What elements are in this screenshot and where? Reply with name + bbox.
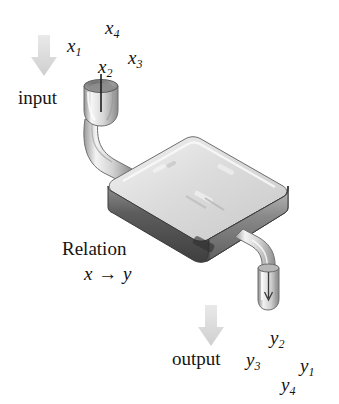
input-funnel bbox=[84, 74, 118, 126]
relation-label: Relation bbox=[62, 239, 126, 258]
relation-mapping: x → y bbox=[84, 264, 132, 283]
input-variable-x3: x3 bbox=[128, 48, 142, 67]
output-variable-y4: y4 bbox=[281, 375, 295, 394]
input-label: input bbox=[18, 88, 57, 107]
output-arrow-icon bbox=[198, 305, 224, 346]
input-pipe bbox=[84, 119, 132, 182]
input-variable-x1: x1 bbox=[67, 36, 81, 55]
output-nozzle bbox=[258, 264, 279, 310]
output-variable-y2: y2 bbox=[270, 328, 284, 347]
figure-canvas: x1 x2 x3 x4 input Relation x → y output … bbox=[0, 0, 339, 404]
input-variable-x2: x2 bbox=[98, 57, 112, 76]
output-label: output bbox=[172, 349, 221, 368]
machine-illustration bbox=[0, 0, 339, 404]
output-variable-y3: y3 bbox=[246, 350, 260, 369]
input-variable-x4: x4 bbox=[105, 18, 119, 37]
output-variable-y1: y1 bbox=[300, 356, 314, 375]
input-arrow-icon bbox=[31, 35, 57, 76]
